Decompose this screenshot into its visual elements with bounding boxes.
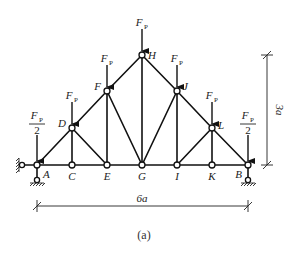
- svg-text:P: P: [250, 116, 254, 124]
- supports: [16, 158, 256, 186]
- member-FG: [107, 91, 142, 165]
- node-label-I: I: [174, 170, 180, 182]
- height-dimension: 3a: [261, 51, 286, 169]
- span-dimension: 6a: [33, 192, 252, 212]
- node-label-G: G: [138, 170, 146, 182]
- node-H: [139, 52, 145, 58]
- node-label-D: D: [57, 117, 66, 129]
- member-LB: [212, 128, 248, 165]
- node-A: [34, 162, 40, 168]
- node-E: [104, 162, 110, 168]
- load-label-F: F: [100, 52, 108, 64]
- svg-text:P: P: [74, 96, 78, 104]
- load-A: FP2: [29, 109, 45, 161]
- svg-text:P: P: [39, 116, 43, 124]
- member-JG: [142, 91, 177, 165]
- node-label-J: J: [183, 80, 189, 92]
- svg-text:P: P: [214, 96, 218, 104]
- load-label-D: F: [65, 89, 73, 101]
- node-label-K: K: [207, 170, 216, 182]
- node-B: [245, 162, 251, 168]
- truss-members: [37, 55, 248, 165]
- node-label-B: B: [235, 168, 242, 180]
- member-LI: [177, 128, 212, 165]
- load-J: FP: [170, 52, 183, 87]
- load-H: FP: [135, 16, 148, 51]
- load-label-B: F: [241, 109, 249, 121]
- load-label-H: F: [135, 16, 143, 28]
- member-AD: [37, 128, 72, 165]
- node-J: [174, 88, 180, 94]
- figure-caption: (a): [0, 228, 288, 243]
- load-label-J: F: [170, 52, 178, 64]
- svg-text:P: P: [144, 23, 148, 31]
- member-DE: [72, 128, 107, 165]
- node-G: [139, 162, 145, 168]
- svg-text:P: P: [179, 59, 183, 67]
- truss-diagram: FP2FPFPFPFPFPFP2 ACEGIKBDFHJL 6a 3a (a): [0, 0, 288, 258]
- node-label-A: A: [42, 168, 50, 180]
- node-label-H: H: [147, 49, 157, 61]
- load-label-A: F: [30, 109, 38, 121]
- node-D: [69, 125, 75, 131]
- node-I: [174, 162, 180, 168]
- node-label-C: C: [68, 170, 76, 182]
- load-B: FP2: [240, 109, 256, 161]
- node-C: [69, 162, 75, 168]
- node-K: [209, 162, 215, 168]
- node-L: [209, 125, 215, 131]
- node-F: [104, 88, 110, 94]
- load-D: FP: [65, 89, 78, 124]
- span-label: 6a: [137, 192, 149, 204]
- svg-text:2: 2: [245, 124, 251, 136]
- svg-text:P: P: [109, 59, 113, 67]
- load-L: FP: [205, 89, 218, 124]
- node-label-L: L: [217, 119, 224, 131]
- node-label-E: E: [103, 170, 111, 182]
- svg-text:2: 2: [34, 124, 40, 136]
- node-label-F: F: [93, 80, 101, 92]
- height-label: 3a: [274, 104, 286, 117]
- load-F: FP: [100, 52, 113, 87]
- load-label-L: F: [205, 89, 213, 101]
